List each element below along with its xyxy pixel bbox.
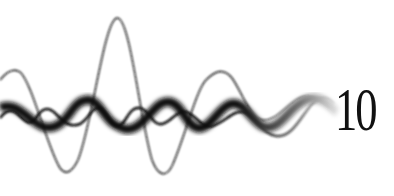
thin-wave [0, 18, 330, 174]
chapter-number: 10 [335, 78, 375, 140]
thick-wave [0, 98, 338, 129]
